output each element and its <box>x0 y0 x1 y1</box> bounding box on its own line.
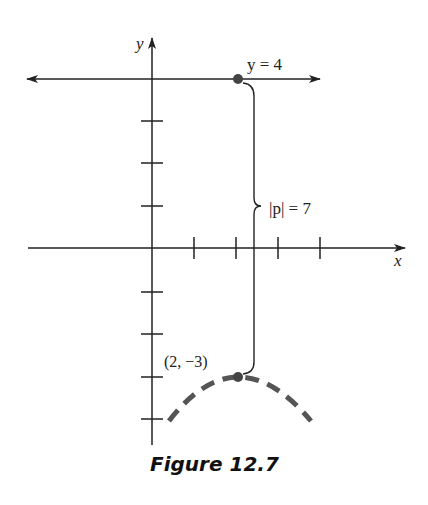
distance-brace <box>243 83 261 374</box>
directrix-point <box>233 74 243 84</box>
x-axis-label: x <box>393 251 402 270</box>
figure-caption: Figure 12.7 <box>150 452 279 476</box>
parabola-curve <box>169 377 311 421</box>
y-axis-label: y <box>134 34 144 53</box>
distance-label: |p| = 7 <box>269 199 311 218</box>
vertex-point <box>233 372 243 382</box>
vertex-label: (2, −3) <box>164 353 208 371</box>
directrix-label: y = 4 <box>247 55 283 74</box>
figure-canvas: y x y = 4 |p| = 7 (2, −3) Figure 12.7 <box>0 0 428 505</box>
